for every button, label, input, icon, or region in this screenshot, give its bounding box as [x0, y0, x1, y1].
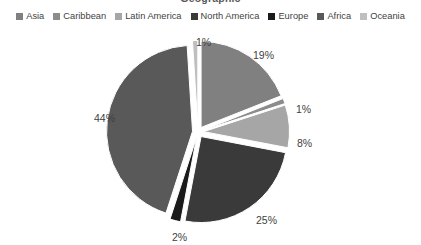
legend-item-caribbean[interactable]: Caribbean — [53, 11, 106, 21]
legend-item-label: North America — [201, 11, 260, 21]
legend-swatch-icon — [360, 13, 367, 20]
data-label-oceania: 1% — [196, 36, 211, 48]
legend-item-north-america[interactable]: North America — [191, 11, 260, 21]
plot-area: 1% 19% 1% 8% 25% 2% 44% — [0, 24, 421, 245]
legend-swatch-icon — [191, 13, 198, 20]
legend-item-europe[interactable]: Europe — [268, 11, 308, 21]
data-label-caribbean: 1% — [296, 103, 311, 115]
legend-item-label: Latin America — [125, 11, 181, 21]
data-label-north-america: 25% — [256, 214, 277, 226]
chart-legend: Asia Caribbean Latin America North Ameri… — [0, 9, 421, 23]
legend-swatch-icon — [115, 13, 122, 20]
data-label-africa: 44% — [94, 112, 115, 124]
legend-item-asia[interactable]: Asia — [16, 11, 44, 21]
legend-item-label: Oceania — [370, 11, 405, 21]
pie-chart-container: Geographic Asia Caribbean Latin America … — [0, 0, 421, 245]
chart-title: Geographic — [0, 0, 421, 4]
pie-slices-group — [0, 24, 421, 245]
legend-swatch-icon — [268, 13, 275, 20]
pie-slice-north-america[interactable] — [185, 137, 286, 223]
legend-item-label: Africa — [327, 11, 351, 21]
legend-item-label: Caribbean — [63, 11, 106, 21]
pie-slice-oceania[interactable] — [192, 41, 197, 127]
legend-swatch-icon — [317, 13, 324, 20]
legend-item-latin-america[interactable]: Latin America — [115, 11, 181, 21]
legend-item-oceania[interactable]: Oceania — [360, 11, 405, 21]
legend-swatch-icon — [53, 13, 60, 20]
legend-item-label: Europe — [278, 11, 308, 21]
legend-item-label: Asia — [26, 11, 44, 21]
legend-swatch-icon — [16, 13, 23, 20]
data-label-europe: 2% — [172, 231, 187, 243]
data-label-asia: 19% — [253, 49, 274, 61]
pie-slice-africa[interactable] — [107, 45, 193, 213]
legend-item-africa[interactable]: Africa — [317, 11, 351, 21]
data-label-latin-america: 8% — [297, 137, 312, 149]
